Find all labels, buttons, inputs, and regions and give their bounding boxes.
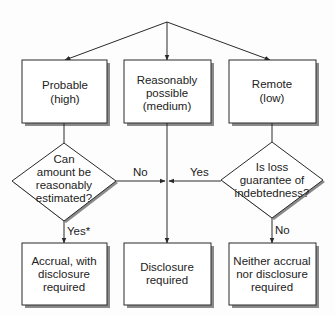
box-neither: Neither accrualnor disclosurerequired: [229, 243, 319, 308]
decision-text: amount be: [37, 166, 91, 178]
box-text: (high): [50, 93, 80, 105]
fanout-arrows: [65, 22, 270, 60]
box-remote: Remote(low): [229, 60, 319, 126]
box-text: Disclosure: [140, 261, 194, 273]
edge-label-yes-right: Yes: [190, 166, 209, 178]
decision-text: guarantee of: [240, 174, 305, 186]
flowchart-canvas: Probable(high) Reasonablypossible(medium…: [0, 0, 335, 316]
box-text: required: [146, 274, 188, 286]
decision-can-estimate: Canamount bereasonablyestimated?: [12, 143, 118, 223]
decision-text: reasonably: [36, 179, 93, 191]
box-text: required: [43, 281, 85, 293]
edge-label-no-left: No: [133, 166, 148, 178]
box-text: Neither accrual: [233, 255, 310, 267]
box-text: disclosure: [38, 268, 90, 280]
edge-label-yes-left: Yes*: [67, 225, 91, 237]
box-text: possible: [146, 87, 188, 99]
box-probable: Probable(high): [22, 60, 110, 126]
box-reasonably-possible: Reasonablypossible(medium): [124, 60, 214, 126]
edge-label-no-right: No: [275, 224, 290, 236]
box-text: Probable: [42, 79, 88, 91]
decision-text: Can: [53, 153, 74, 165]
box-text: Accrual, with: [31, 255, 96, 267]
box-text: Reasonably: [137, 74, 198, 86]
box-text: required: [251, 281, 293, 293]
decision-text: estimated?: [36, 192, 92, 204]
decision-text: Is loss: [256, 161, 289, 173]
box-text: nor disclosure: [236, 268, 308, 280]
box-text: (medium): [143, 100, 192, 112]
decision-loss-guarantee: Is lossguarantee ofindebtedness?: [221, 142, 325, 220]
box-text: (low): [260, 92, 285, 104]
box-text: Remote: [252, 78, 292, 90]
box-accrual: Accrual, withdisclosurerequired: [22, 243, 110, 308]
decision-text: indebtedness?: [235, 187, 310, 199]
svg-text:Disclosurerequired: Disclosurerequired: [140, 261, 194, 286]
box-disclosure: Disclosurerequired: [124, 243, 214, 308]
